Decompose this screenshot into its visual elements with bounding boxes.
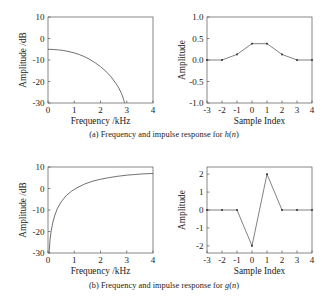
x-tick-label: 0 (46, 105, 51, 115)
x-tick-label: -2 (218, 105, 226, 115)
y-tick-label: 1.0 (192, 12, 204, 22)
y-tick-label: 0 (40, 34, 45, 44)
panel-b-impulse: -3-2-101234-2-1012Sample IndexAmplitude (177, 167, 315, 276)
y-tick-label: -30 (33, 248, 45, 258)
x-tick-label: 1 (265, 255, 270, 265)
data-point (266, 43, 268, 45)
panel-b: 01234-30-20-10010Frequency /kHzAmplitude… (0, 150, 328, 301)
y-tick-label: -1.0 (189, 98, 204, 108)
x-tick-label: 4 (310, 105, 315, 115)
data-point (236, 54, 238, 56)
data-point (311, 209, 313, 211)
data-series (207, 44, 312, 60)
x-tick-label: -1 (233, 255, 241, 265)
y-axis-title: Amplitude /dB (18, 182, 28, 238)
x-tick-label: 0 (250, 105, 255, 115)
y-tick-label: -30 (33, 98, 45, 108)
data-series (48, 49, 127, 120)
caption-a-prefix: (a) Frequency and impulse response for (89, 130, 225, 139)
plot-frame (48, 167, 153, 253)
y-tick-label: 0 (40, 184, 45, 194)
y-tick-label: 10 (36, 12, 46, 22)
y-axis-title: Amplitude (177, 190, 187, 230)
caption-b-prefix: (b) Frequency and impulse response for (89, 281, 225, 290)
x-tick-label: 3 (295, 255, 300, 265)
y-tick-label: 10 (36, 162, 46, 172)
y-tick-label: -0.5 (189, 77, 204, 87)
figure-container: 01234-30-20-10010Frequency /kHzAmplitude… (0, 0, 328, 301)
plot-frame (48, 17, 153, 103)
x-axis-title: Sample Index (234, 266, 286, 276)
data-point (206, 209, 208, 211)
data-point (206, 59, 208, 61)
x-tick-label: 3 (125, 255, 130, 265)
y-tick-label: -10 (33, 55, 45, 65)
y-tick-label: 2 (199, 169, 204, 179)
x-tick-label: 1 (72, 255, 77, 265)
x-tick-label: 1 (265, 105, 270, 115)
data-point (281, 54, 283, 56)
data-point (296, 59, 298, 61)
y-tick-label: 0.0 (192, 55, 204, 65)
y-tick-label: 0.5 (192, 34, 204, 44)
x-tick-label: 0 (46, 255, 51, 265)
x-tick-label: 3 (125, 105, 130, 115)
x-tick-label: 4 (151, 255, 156, 265)
data-point (251, 43, 253, 45)
x-axis-title: Frequency /kHz (71, 266, 131, 276)
panel-b-frequency: 01234-30-20-10010Frequency /kHzAmplitude… (18, 162, 156, 276)
data-point (221, 59, 223, 61)
x-tick-label: 2 (98, 255, 103, 265)
caption-b: (b) Frequency and impulse response for g… (0, 281, 328, 290)
caption-a-arg: (n) (229, 130, 239, 139)
y-tick-label: 0 (199, 205, 204, 215)
y-tick-label: -1 (196, 223, 204, 233)
data-point (266, 173, 268, 175)
y-tick-label: -20 (33, 227, 45, 237)
x-axis-title: Sample Index (234, 116, 286, 126)
x-tick-label: 2 (280, 105, 285, 115)
x-tick-label: 0 (250, 255, 255, 265)
data-point (236, 209, 238, 211)
caption-a-n: n (232, 130, 236, 139)
x-tick-label: -2 (218, 255, 226, 265)
y-tick-label: 1 (199, 187, 204, 197)
y-axis-title: Amplitude (177, 40, 187, 80)
x-tick-label: 2 (98, 105, 103, 115)
caption-a: (a) Frequency and impulse response for h… (0, 130, 328, 139)
x-tick-label: 4 (310, 255, 315, 265)
x-tick-label: 4 (151, 105, 156, 115)
y-tick-label: -20 (33, 77, 45, 87)
panel-a: 01234-30-20-10010Frequency /kHzAmplitude… (0, 0, 328, 150)
x-tick-label: -3 (203, 105, 211, 115)
y-tick-label: -2 (196, 241, 204, 251)
panel-a-charts: 01234-30-20-10010Frequency /kHzAmplitude… (0, 0, 328, 130)
caption-b-n: n (232, 281, 236, 290)
data-point (296, 209, 298, 211)
x-tick-label: 2 (280, 255, 285, 265)
panel-a-impulse: -3-2-101234-1.0-0.50.00.51.0Sample Index… (177, 12, 315, 126)
data-point (251, 245, 253, 247)
x-axis-title: Frequency /kHz (71, 116, 131, 126)
panel-a-frequency: 01234-30-20-10010Frequency /kHzAmplitude… (18, 12, 156, 126)
data-point (311, 59, 313, 61)
x-tick-label: 1 (72, 105, 77, 115)
x-tick-label: -3 (203, 255, 211, 265)
y-axis-title: Amplitude /dB (18, 32, 28, 88)
panel-b-charts: 01234-30-20-10010Frequency /kHzAmplitude… (0, 150, 328, 280)
data-series (49, 173, 153, 253)
caption-b-arg: (n) (229, 281, 239, 290)
y-tick-label: -10 (33, 205, 45, 215)
x-tick-label: 3 (295, 105, 300, 115)
data-point (221, 209, 223, 211)
x-tick-label: -1 (233, 105, 241, 115)
data-point (281, 209, 283, 211)
